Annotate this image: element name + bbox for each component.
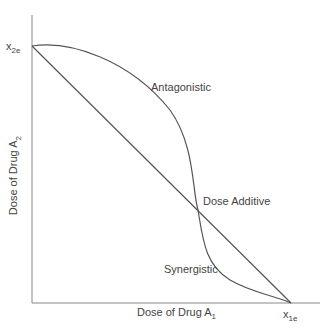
dose-additive-label: Dose Additive [203, 195, 270, 207]
y-axis-label: Dose of Drug A2 [7, 121, 22, 231]
synergistic-label: Synergistic [164, 263, 218, 275]
antagonistic-label: Antagonistic [151, 81, 211, 93]
isobologram-plot [0, 0, 335, 330]
x-axis-label: Dose of Drug A1 [137, 306, 216, 321]
x-intercept-label: x1e [283, 308, 297, 323]
y-intercept-label: x2e [6, 40, 20, 55]
